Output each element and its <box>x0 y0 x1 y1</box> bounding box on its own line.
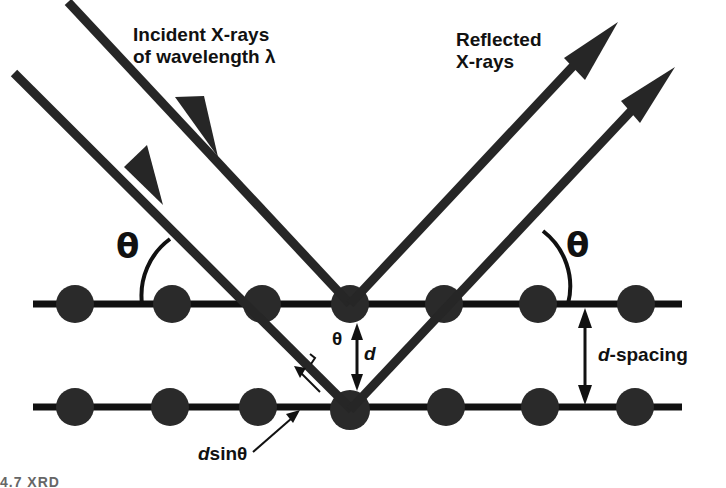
atom <box>519 285 557 323</box>
bragg-diffraction-diagram <box>0 0 726 488</box>
atom <box>151 388 189 426</box>
theta-center-label: θ <box>332 328 342 350</box>
d-spacing-d: d <box>598 344 610 365</box>
atom <box>521 388 559 426</box>
incident-label-line2: of wavelength λ <box>133 46 276 68</box>
d-arrow-center <box>351 323 363 391</box>
dsin-text: sinθ <box>210 443 248 464</box>
incident-label-line1: Incident X-rays <box>133 24 276 46</box>
d-center-label: d <box>364 343 376 365</box>
reflected-label-line1: Reflected <box>456 29 542 51</box>
dsin-theta-label: dsinθ <box>198 443 247 465</box>
atom <box>617 285 655 323</box>
incident-xrays-label: Incident X-rays of wavelength λ <box>133 24 276 68</box>
d-spacing-text: -spacing <box>610 344 688 365</box>
atom <box>56 285 94 323</box>
dsin-d: d <box>198 443 210 464</box>
reflected-xrays-label: Reflected X-rays <box>456 29 542 73</box>
atom <box>239 388 277 426</box>
atom <box>56 388 94 426</box>
theta-left-label: θ <box>116 227 139 266</box>
theta-right-label: θ <box>566 226 589 265</box>
atom <box>616 388 654 426</box>
d-spacing-arrow <box>578 308 592 405</box>
reflected-label-line2: X-rays <box>456 51 542 73</box>
atom <box>427 388 465 426</box>
atom <box>153 285 191 323</box>
d-spacing-label: d-spacing <box>598 344 688 366</box>
figure-caption: 4.7 XRD <box>0 474 60 488</box>
